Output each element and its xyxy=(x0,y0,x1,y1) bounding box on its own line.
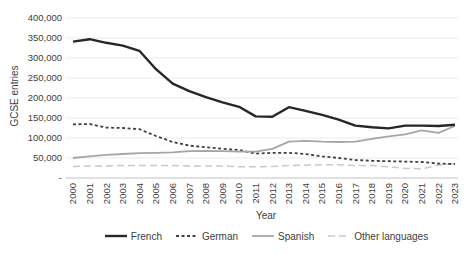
x-axis-tick-labels: 2000200120022003200420052006200720082009… xyxy=(67,183,460,204)
y-axis-tick-labels: -50,000100,000150,000200,000250,000300,0… xyxy=(28,12,62,183)
spanish-line-swatch-icon xyxy=(251,232,275,240)
chart-legend: French German Spanish Other languages xyxy=(64,227,468,245)
svg-text:2018: 2018 xyxy=(366,183,377,204)
series-lines xyxy=(73,39,455,169)
svg-text:2019: 2019 xyxy=(383,183,394,204)
svg-text:200,000: 200,000 xyxy=(28,92,62,103)
svg-text:2017: 2017 xyxy=(350,183,361,204)
legend-label-other-languages: Other languages xyxy=(354,231,428,242)
legend-item-french: French xyxy=(104,231,162,242)
legend-item-german: German xyxy=(175,231,238,242)
svg-text:2010: 2010 xyxy=(233,183,244,204)
svg-text:-: - xyxy=(59,172,62,183)
svg-text:50,000: 50,000 xyxy=(33,152,62,163)
svg-text:300,000: 300,000 xyxy=(28,52,62,63)
french-line-swatch-icon xyxy=(104,232,128,240)
svg-text:2002: 2002 xyxy=(101,183,112,204)
svg-text:150,000: 150,000 xyxy=(28,112,62,123)
line-chart-canvas: -50,000100,000150,000200,000250,000300,0… xyxy=(0,0,470,254)
svg-text:2004: 2004 xyxy=(134,183,145,204)
svg-text:2021: 2021 xyxy=(416,183,427,204)
svg-text:2001: 2001 xyxy=(84,183,95,204)
svg-text:2006: 2006 xyxy=(167,183,178,204)
legend-item-spanish: Spanish xyxy=(251,231,314,242)
svg-text:2015: 2015 xyxy=(316,183,327,204)
svg-text:2023: 2023 xyxy=(449,183,460,204)
svg-text:2012: 2012 xyxy=(267,183,278,204)
svg-text:2011: 2011 xyxy=(250,183,261,203)
svg-text:2016: 2016 xyxy=(333,183,344,204)
german-line-swatch-icon xyxy=(175,232,199,240)
chart-figure: -50,000100,000150,000200,000250,000300,0… xyxy=(0,0,470,254)
svg-text:2000: 2000 xyxy=(67,183,78,204)
svg-text:2009: 2009 xyxy=(217,183,228,204)
other-languages-line-swatch-icon xyxy=(327,232,351,240)
svg-text:2005: 2005 xyxy=(150,183,161,204)
svg-text:350,000: 350,000 xyxy=(28,32,62,43)
svg-text:2007: 2007 xyxy=(184,183,195,204)
svg-text:2020: 2020 xyxy=(399,183,410,204)
legend-item-other-languages: Other languages xyxy=(327,231,428,242)
svg-text:400,000: 400,000 xyxy=(28,12,62,23)
legend-label-spanish: Spanish xyxy=(278,231,314,242)
svg-text:2008: 2008 xyxy=(200,183,211,204)
x-axis-title: Year xyxy=(256,210,277,221)
legend-label-french: French xyxy=(131,231,162,242)
y-axis-title: GCSE entries xyxy=(9,65,20,126)
svg-text:2022: 2022 xyxy=(433,183,444,204)
svg-text:250,000: 250,000 xyxy=(28,72,62,83)
svg-text:2003: 2003 xyxy=(117,183,128,204)
legend-label-german: German xyxy=(202,231,238,242)
svg-text:100,000: 100,000 xyxy=(28,132,62,143)
gridlines xyxy=(66,18,458,158)
svg-text:2013: 2013 xyxy=(283,183,294,204)
svg-text:2014: 2014 xyxy=(300,183,311,204)
